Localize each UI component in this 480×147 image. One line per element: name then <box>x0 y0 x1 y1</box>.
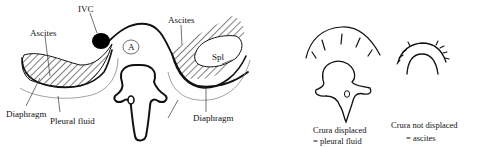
caption-crura-displaced-line1: Crura displaced <box>313 125 367 135</box>
fluid-tick <box>356 38 360 47</box>
ascites-tick <box>408 42 410 46</box>
diagram-canvas: IVC Ascites A Ascites Spl Diaphragm Pleu… <box>0 0 480 147</box>
vertebra-shape <box>114 65 166 141</box>
label-ivc: IVC <box>78 4 94 14</box>
caption-crura-not-displaced-line1: Crura not displaced <box>391 120 458 130</box>
caption-crura-not-displaced-line2: = ascites <box>406 133 436 143</box>
ascites-tick <box>436 41 438 45</box>
ivc-leader <box>90 13 97 33</box>
pl-fluid-right-leader <box>168 100 178 118</box>
ivc-shape <box>92 33 110 49</box>
vertebral-canal <box>128 96 134 104</box>
label-ascites-right: Ascites <box>168 15 195 25</box>
label-pleural-fluid-left: Pleural fluid <box>50 116 95 126</box>
fluid-tick <box>368 50 372 56</box>
caption-crura-displaced-line2: = pleural fluid <box>313 136 362 146</box>
crura-not-displaced-figure: Crura not displaced = ascites <box>391 41 458 143</box>
displaced-crura-arc <box>306 27 380 58</box>
vertebra-small-shape <box>316 61 371 122</box>
vertebral-canal-small <box>344 91 349 98</box>
diagram-svg: IVC Ascites A Ascites Spl Diaphragm Pleu… <box>0 0 480 147</box>
label-diaphragm-left: Diaphragm <box>6 109 47 119</box>
label-spleen: Spl <box>212 52 225 62</box>
label-diaphragm-right: Diaphragm <box>193 113 234 123</box>
crura-displaced-figure: Crura displaced = pleural fluid <box>306 27 380 146</box>
left-cross-section: IVC Ascites A Ascites Spl Diaphragm Pleu… <box>6 4 250 141</box>
label-ascites-left: Ascites <box>30 28 57 38</box>
fluid-tick <box>341 34 342 44</box>
ascites-tick <box>440 46 444 48</box>
ascites-tick <box>445 58 449 59</box>
ascites-right-leader <box>181 25 182 45</box>
label-aorta: A <box>128 42 135 52</box>
fluid-tick <box>322 40 325 50</box>
fluid-tick <box>312 52 316 58</box>
crura-outer-arc <box>398 43 446 62</box>
ascites-tick <box>443 52 447 53</box>
crura-inner-arc <box>407 54 438 74</box>
